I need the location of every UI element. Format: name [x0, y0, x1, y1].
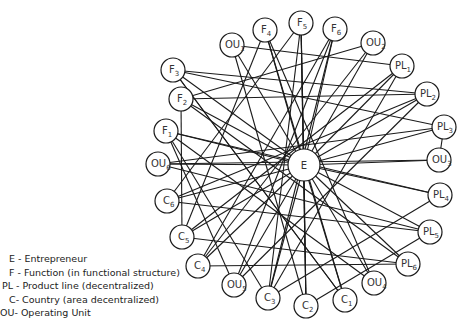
- node-F2: F2: [169, 87, 193, 111]
- node-C6: C6: [155, 189, 179, 213]
- edge-E-PL5: [304, 165, 430, 232]
- node-OU1: OU1: [220, 33, 245, 57]
- node-OU2: OU2: [361, 31, 386, 55]
- legend-product-line: PL - Product line (decentralized): [0, 279, 180, 293]
- legend: E - Entrepreneur F - Function (in functi…: [0, 252, 180, 320]
- edge-C5-F4: [182, 30, 265, 237]
- legend-operating-unit: OU- Operating Unit: [0, 306, 180, 320]
- edge-F2-C5: [181, 99, 182, 237]
- svg-text:E: E: [301, 160, 307, 171]
- legend-function: F - Function (in functional structure): [0, 266, 180, 280]
- edge-E-OU5: [234, 165, 304, 285]
- edge-PL4-C3: [268, 195, 440, 298]
- node-F3: F3: [161, 58, 185, 82]
- node-F4: F4: [253, 18, 277, 42]
- node-E-entrepreneur: E: [288, 149, 320, 181]
- node-C3: C3: [256, 286, 280, 310]
- node-OU6: OU6: [146, 152, 171, 176]
- edge-F2-PL2: [181, 94, 427, 99]
- node-PL5: PL5: [418, 220, 442, 244]
- node-C4: C4: [186, 254, 210, 278]
- node-OU3: OU3: [427, 148, 452, 172]
- node-PL6: PL6: [396, 252, 420, 276]
- node-F6: F6: [323, 17, 347, 41]
- node-C1: C1: [333, 288, 357, 312]
- node-PL2: PL2: [415, 82, 439, 106]
- node-OU4: OU4: [362, 271, 387, 295]
- edge-PL2-C6: [167, 94, 427, 201]
- node-C2: C2: [294, 294, 318, 318]
- legend-entrepreneur: E - Entrepreneur: [0, 252, 180, 266]
- node-PL4: PL4: [428, 183, 452, 207]
- node-OU5: OU5: [222, 273, 247, 297]
- node-F1: F1: [154, 119, 178, 143]
- node-PL3: PL3: [432, 115, 456, 139]
- legend-country: C- Country (area decentralized): [0, 293, 180, 307]
- node-C5: C5: [170, 225, 194, 249]
- node-F5: F5: [289, 11, 313, 35]
- node-PL1: PL1: [390, 54, 414, 78]
